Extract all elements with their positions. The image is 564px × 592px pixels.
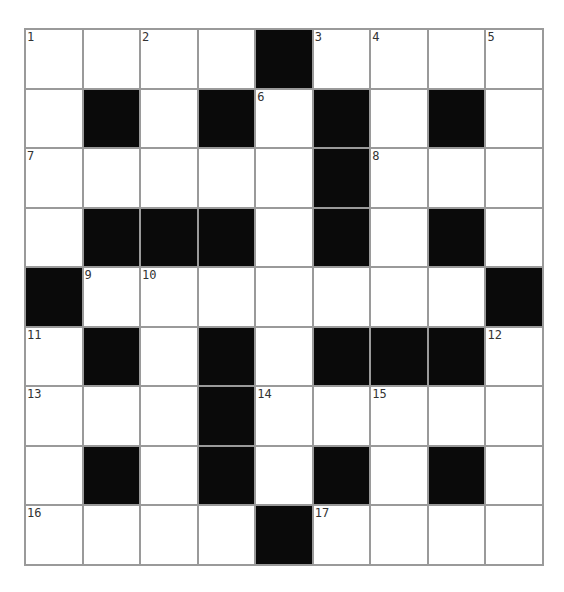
black-square [199, 387, 257, 447]
crossword-cell[interactable] [256, 149, 314, 209]
crossword-cell[interactable] [371, 506, 429, 566]
crossword-grid: 1234567891011121314151617 [24, 28, 544, 566]
clue-number: 1 [27, 31, 34, 43]
clue-number: 5 [487, 31, 494, 43]
crossword-cell[interactable] [429, 30, 487, 90]
clue-number: 11 [27, 329, 41, 341]
crossword-cell[interactable] [141, 447, 199, 507]
crossword-cell[interactable] [486, 447, 544, 507]
crossword-cell[interactable]: 6 [256, 90, 314, 150]
crossword-app: 1234567891011121314151617 [0, 0, 564, 592]
crossword-cell[interactable] [141, 149, 199, 209]
crossword-cell[interactable] [429, 149, 487, 209]
crossword-cell[interactable] [429, 506, 487, 566]
black-square [429, 209, 487, 269]
black-square [314, 209, 372, 269]
crossword-cell[interactable] [26, 447, 84, 507]
crossword-cell[interactable] [26, 90, 84, 150]
black-square [371, 328, 429, 388]
black-square [84, 328, 142, 388]
clue-number: 15 [372, 388, 386, 400]
crossword-cell[interactable] [256, 268, 314, 328]
crossword-cell[interactable]: 7 [26, 149, 84, 209]
crossword-cell[interactable] [26, 209, 84, 269]
crossword-cell[interactable]: 10 [141, 268, 199, 328]
crossword-cell[interactable]: 4 [371, 30, 429, 90]
crossword-cell[interactable]: 15 [371, 387, 429, 447]
black-square [199, 447, 257, 507]
crossword-cell[interactable] [371, 447, 429, 507]
crossword-cell[interactable]: 2 [141, 30, 199, 90]
crossword-cell[interactable] [256, 209, 314, 269]
black-square [486, 268, 544, 328]
clue-number: 7 [27, 150, 34, 162]
crossword-cell[interactable] [199, 30, 257, 90]
clue-number: 8 [372, 150, 379, 162]
crossword-cell[interactable] [141, 506, 199, 566]
crossword-cell[interactable] [84, 30, 142, 90]
clue-number: 17 [315, 507, 329, 519]
crossword-cell[interactable] [429, 268, 487, 328]
crossword-cell[interactable]: 16 [26, 506, 84, 566]
black-square [314, 90, 372, 150]
clue-number: 16 [27, 507, 41, 519]
crossword-cell[interactable]: 14 [256, 387, 314, 447]
clue-number: 2 [142, 31, 149, 43]
black-square [141, 209, 199, 269]
crossword-cell[interactable]: 8 [371, 149, 429, 209]
black-square [84, 90, 142, 150]
black-square [199, 209, 257, 269]
crossword-cell[interactable] [429, 387, 487, 447]
clue-number: 13 [27, 388, 41, 400]
crossword-cell[interactable] [314, 387, 372, 447]
crossword-cell[interactable]: 13 [26, 387, 84, 447]
crossword-cell[interactable] [84, 506, 142, 566]
black-square [84, 447, 142, 507]
black-square [256, 30, 314, 90]
crossword-cell[interactable] [486, 209, 544, 269]
crossword-cell[interactable] [256, 328, 314, 388]
black-square [84, 209, 142, 269]
black-square [429, 447, 487, 507]
clue-number: 4 [372, 31, 379, 43]
clue-number: 6 [257, 91, 264, 103]
crossword-cell[interactable]: 11 [26, 328, 84, 388]
crossword-cell[interactable] [371, 268, 429, 328]
black-square [314, 149, 372, 209]
crossword-cell[interactable] [314, 268, 372, 328]
crossword-cell[interactable] [371, 90, 429, 150]
crossword-cell[interactable]: 12 [486, 328, 544, 388]
clue-number: 14 [257, 388, 271, 400]
clue-number: 3 [315, 31, 322, 43]
clue-number: 12 [487, 329, 501, 341]
crossword-cell[interactable] [141, 387, 199, 447]
black-square [256, 506, 314, 566]
crossword-cell[interactable] [486, 149, 544, 209]
crossword-cell[interactable]: 9 [84, 268, 142, 328]
crossword-cell[interactable] [486, 90, 544, 150]
crossword-cell[interactable] [84, 149, 142, 209]
black-square [26, 268, 84, 328]
black-square [199, 90, 257, 150]
clue-number: 9 [85, 269, 92, 281]
black-square [314, 447, 372, 507]
black-square [199, 328, 257, 388]
crossword-cell[interactable] [141, 328, 199, 388]
crossword-cell[interactable]: 17 [314, 506, 372, 566]
black-square [314, 328, 372, 388]
crossword-cell[interactable]: 5 [486, 30, 544, 90]
crossword-cell[interactable] [141, 90, 199, 150]
clue-number: 10 [142, 269, 156, 281]
crossword-cell[interactable] [256, 447, 314, 507]
crossword-cell[interactable] [84, 387, 142, 447]
black-square [429, 90, 487, 150]
crossword-cell[interactable] [486, 387, 544, 447]
crossword-cell[interactable] [199, 268, 257, 328]
crossword-cell[interactable]: 3 [314, 30, 372, 90]
crossword-cell[interactable] [371, 209, 429, 269]
black-square [429, 328, 487, 388]
crossword-cell[interactable]: 1 [26, 30, 84, 90]
crossword-cell[interactable] [486, 506, 544, 566]
crossword-cell[interactable] [199, 149, 257, 209]
crossword-cell[interactable] [199, 506, 257, 566]
